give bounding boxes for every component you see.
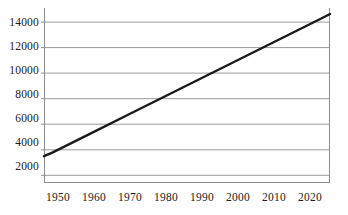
ytick-label-4000: 4000 [0,137,39,149]
ytick-label-6000: 6000 [0,113,39,125]
axis-ticks-group [41,22,44,175]
gridlines-group [44,22,330,175]
ytick-label-10000: 10000 [0,65,39,77]
chart-plot-area [0,0,348,215]
ytick-label-2000: 2000 [0,161,39,173]
ytick-label-8000: 8000 [0,89,39,101]
ytick-label-12000: 12000 [0,41,39,53]
line-chart: 14000 12000 10000 8000 6000 4000 2000 19… [0,0,348,215]
data-line-series-1 [44,14,330,156]
ytick-label-14000: 14000 [0,17,39,29]
xtick-label-2020: 2020 [285,192,335,204]
